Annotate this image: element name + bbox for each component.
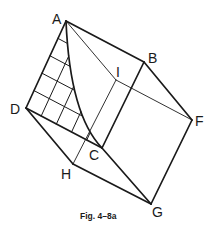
label-f: F (195, 113, 204, 129)
hatch-line (42, 73, 75, 90)
label-c: C (89, 147, 99, 163)
figure-diagram: A B I D F C H G Fig. 4–8a (0, 0, 214, 234)
edge-d-c (26, 108, 102, 148)
figure-caption: Fig. 4–8a (80, 211, 117, 221)
visible-edges (26, 21, 192, 204)
label-i: I (116, 64, 120, 80)
label-h: H (61, 166, 71, 182)
hatch-line (50, 56, 70, 67)
curve-a-c (66, 21, 102, 148)
edge-f-g (151, 120, 192, 204)
hatch-line (58, 38, 67, 43)
label-g: G (152, 204, 163, 220)
edge-i-f (116, 80, 192, 120)
hatch-line (72, 112, 81, 132)
label-d: D (10, 101, 20, 117)
label-a: A (52, 11, 62, 27)
edge-g-c (102, 148, 151, 204)
edge-b-f (144, 62, 192, 120)
edge-a-i (66, 21, 116, 80)
hatch-line (56, 86, 73, 124)
edge-a-d (26, 21, 66, 108)
edge-d-h (26, 108, 73, 164)
edge-a-b (66, 21, 144, 62)
edge-c-b (102, 62, 144, 148)
label-b: B (148, 50, 157, 66)
edge-h-g (73, 164, 151, 204)
